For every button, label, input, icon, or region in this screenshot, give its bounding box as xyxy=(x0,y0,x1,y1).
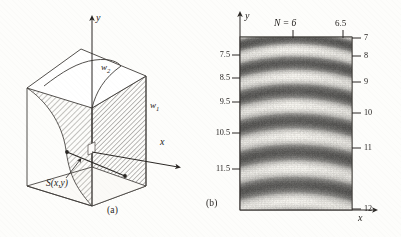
axis-x-label-panel-b: x xyxy=(358,212,362,223)
panel-b-fringe-map: y x N = 6 6.5 7.5 8.5 9.5 10.5 11.5 7 8 … xyxy=(200,0,401,237)
region-label-w2: w2 xyxy=(101,62,110,74)
left-tick-label-3: 10.5 xyxy=(203,128,230,137)
left-tick-label-2: 9.5 xyxy=(206,97,230,106)
left-tick-label-0: 7.5 xyxy=(206,50,230,59)
surface-function-label: S(x,y) xyxy=(46,178,68,188)
axis-y-label-panel-a: y xyxy=(96,12,100,23)
region-label-w2-sub: 2 xyxy=(107,67,110,74)
fringe-order-label: N = 6 xyxy=(274,18,296,28)
fringe-order-label-secondary: 6.5 xyxy=(335,18,346,28)
right-tick-label-2: 9 xyxy=(364,77,368,86)
caption-panel-a: (a) xyxy=(107,205,118,215)
left-tick-label-4: 11.5 xyxy=(203,164,230,173)
right-tick-marks xyxy=(352,38,361,209)
fringe-plot-area xyxy=(240,37,352,210)
axis-x-label-panel-a: x xyxy=(160,136,164,147)
right-tick-label-1: 8 xyxy=(364,51,368,60)
panel-a-drawing xyxy=(0,0,200,237)
chord-endpoint-left xyxy=(65,150,69,154)
left-tick-marks xyxy=(232,55,240,169)
left-tick-label-1: 8.5 xyxy=(206,73,230,82)
caption-panel-b: (b) xyxy=(206,198,218,208)
panel-a-3d-surface: y x w2 w1 S(x,y) (a) xyxy=(0,0,200,237)
axis-y-label-panel-b: y xyxy=(245,10,249,21)
fringe-heatmap-canvas xyxy=(240,37,352,210)
right-tick-label-5: 12 xyxy=(364,204,372,213)
region-label-w1: w1 xyxy=(150,100,159,112)
right-tick-label-4: 11 xyxy=(364,143,372,152)
chord-endpoint-right xyxy=(123,174,127,178)
right-tick-label-3: 10 xyxy=(364,108,372,117)
right-tick-label-0: 7 xyxy=(364,33,368,42)
figure-root: y x w2 w1 S(x,y) (a) xyxy=(0,0,401,237)
region-label-w1-sub: 1 xyxy=(156,105,159,112)
